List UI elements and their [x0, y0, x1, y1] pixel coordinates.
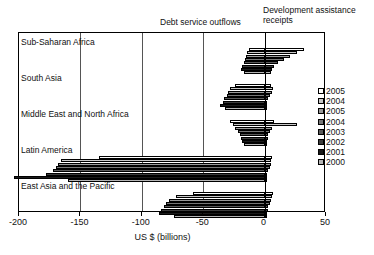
x-axis-tick	[141, 212, 142, 216]
legend-swatch-icon	[318, 108, 324, 114]
legend-item: 2000	[318, 157, 345, 167]
legend-item: 2002	[318, 137, 345, 147]
chart-plot-area: Sub-Saharan AfricaSouth AsiaMiddle East …	[18, 32, 325, 212]
bar-debt-service	[225, 107, 264, 110]
legend-swatch-icon	[318, 129, 324, 135]
chart-legend: 20052004200520042003200220012000	[318, 86, 345, 168]
x-axis-tick-label: -200	[9, 217, 27, 227]
category-label: East Asia and the Pacific	[21, 181, 115, 191]
category-label: Middle East and North Africa	[21, 109, 129, 119]
x-axis-tick	[79, 212, 80, 216]
development-assistance-caption: Development assistance receipts	[263, 5, 371, 25]
legend-label: 2005	[326, 106, 345, 116]
x-axis-tick-label: -150	[70, 217, 88, 227]
legend-swatch-icon	[318, 88, 324, 94]
legend-item: 2005	[318, 106, 345, 116]
legend-item: 2004	[318, 96, 345, 106]
legend-label: 2000	[326, 157, 345, 167]
legend-item: 2001	[318, 147, 345, 157]
category-label: South Asia	[21, 73, 62, 83]
category-label: Sub-Saharan Africa	[21, 37, 95, 47]
bar-debt-service	[244, 143, 265, 146]
legend-label: 2002	[326, 137, 345, 147]
legend-swatch-icon	[318, 119, 324, 125]
bar-debt-service	[174, 215, 265, 218]
legend-label: 2001	[326, 147, 345, 157]
x-axis-tick-label: -100	[132, 217, 150, 227]
legend-swatch-icon	[318, 159, 324, 165]
legend-item: 2003	[318, 127, 345, 137]
x-axis-tick	[18, 212, 19, 216]
legend-swatch-icon	[318, 149, 324, 155]
category-label: Latin America	[21, 145, 73, 155]
legend-item: 2005	[318, 86, 345, 96]
debt-service-caption: Debt service outflows	[160, 17, 241, 27]
legend-swatch-icon	[318, 98, 324, 104]
x-axis-tick	[202, 212, 203, 216]
x-axis-tick-label: 0	[261, 217, 266, 227]
legend-label: 2004	[326, 117, 345, 127]
gridline	[203, 33, 204, 211]
legend-item: 2004	[318, 117, 345, 127]
x-axis-tick	[325, 212, 326, 216]
x-axis-tick-label: -50	[196, 217, 209, 227]
bar-debt-service	[244, 71, 265, 74]
x-axis-title: US $ (billions)	[0, 232, 325, 242]
legend-label: 2004	[326, 96, 345, 106]
legend-swatch-icon	[318, 139, 324, 145]
x-axis-tick-label: 50	[320, 217, 330, 227]
legend-label: 2003	[326, 127, 345, 137]
gridline	[142, 33, 143, 211]
zero-line	[265, 33, 266, 211]
legend-label: 2005	[326, 86, 345, 96]
x-axis-tick	[264, 212, 265, 216]
